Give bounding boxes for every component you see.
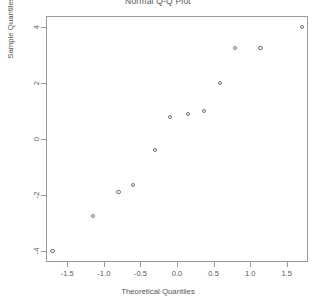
data-point [168,115,172,119]
y-tick-mark [41,139,46,140]
y-tick-label: -4 [32,246,41,256]
y-tick-mark [41,27,46,28]
plot-data-area [46,16,308,262]
x-tick-mark [140,262,141,267]
data-point [218,81,222,85]
data-point [153,148,157,152]
data-point [131,183,135,187]
chart-title: Normal Q-Q Plot [0,0,316,6]
y-tick-mark [41,195,46,196]
x-tick-mark [287,262,288,267]
y-tick-label: 0 [32,134,41,144]
qq-plot-figure: Normal Q-Q Plot -1.5-1.0-0.50.00.51.01.5… [0,0,316,304]
y-tick-mark [41,83,46,84]
data-point [300,25,304,29]
data-point [233,46,237,50]
y-tick-label: -2 [32,190,41,200]
x-tick-mark [104,262,105,267]
x-axis-label: Theoretical Quantiles [0,287,316,296]
y-tick-mark [41,251,46,252]
x-tick-mark [250,262,251,267]
data-point [258,46,262,50]
x-tick-label: -1.5 [61,269,74,278]
x-tick-label: 1.5 [281,269,292,278]
x-tick-label: -0.5 [134,269,147,278]
data-point [202,109,206,113]
data-point [186,112,190,116]
x-tick-label: 1.0 [245,269,256,278]
data-point [91,214,95,218]
x-tick-mark [67,262,68,267]
x-tick-mark [214,262,215,267]
data-point [116,190,120,194]
y-axis-label: Sample Quantiles [5,0,17,151]
x-tick-mark [177,262,178,267]
data-point [50,249,54,253]
x-tick-label: 0.0 [172,269,183,278]
y-tick-label: 4 [32,22,41,32]
x-tick-label: -1.0 [97,269,110,278]
x-tick-label: 0.5 [208,269,219,278]
y-tick-label: 2 [32,78,41,88]
